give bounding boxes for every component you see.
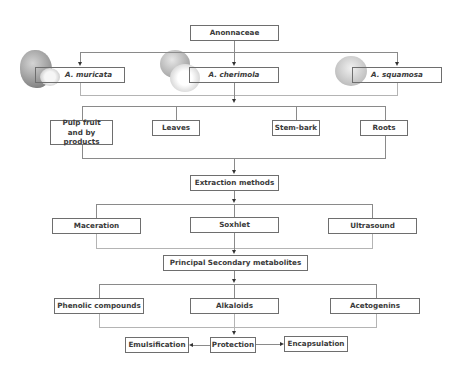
flowchart: Anonnaceae A. muricata A. cherimola A. s… <box>0 0 464 370</box>
species-label: A. muricata <box>65 70 112 80</box>
metabolite-alkaloids: Alkaloids <box>190 298 279 314</box>
protection-node: Protection <box>210 337 256 353</box>
connector-line <box>376 284 377 298</box>
connector-line <box>82 106 386 107</box>
plant-part-label: Leaves <box>162 123 190 133</box>
arrow-down-icon <box>232 62 236 66</box>
connector-line <box>99 314 100 327</box>
connector-line <box>234 284 235 298</box>
secondary-metabolites-node: Principal Secondary metabolites <box>163 255 308 271</box>
connector-line <box>234 204 235 217</box>
method-ultrasound: Ultrasound <box>328 218 417 234</box>
plant-part-label: Stem-bark <box>275 123 317 133</box>
species-label: A. cherimola <box>209 70 260 80</box>
arrow-down-icon <box>232 170 236 174</box>
connector-line <box>385 106 386 120</box>
root-label: Anonnaceae <box>210 28 260 38</box>
connector-line <box>372 204 373 218</box>
metabolite-label: Phenolic compounds <box>57 301 140 311</box>
connector-line <box>80 52 398 53</box>
method-maceration: Maceration <box>52 218 141 234</box>
species-node-cherimola: A. cherimola <box>189 67 279 83</box>
method-label: Ultrasound <box>350 221 395 231</box>
method-label: Maceration <box>74 221 120 231</box>
metabolites-header-label: Principal Secondary metabolites <box>170 258 301 268</box>
arrow-left-icon <box>189 343 193 347</box>
arrow-right-icon <box>280 342 284 346</box>
method-label: Soxhlet <box>219 220 250 230</box>
extraction-label: Extraction methods <box>195 178 274 188</box>
connector-line <box>234 233 235 251</box>
connector-line <box>176 106 177 120</box>
connector-line <box>234 314 235 332</box>
connector-line <box>96 234 97 248</box>
method-soxhlet: Soxhlet <box>190 217 279 233</box>
protection-encapsulation: Encapsulation <box>284 336 348 352</box>
extraction-methods-node: Extraction methods <box>190 175 279 191</box>
connector-line <box>385 136 386 158</box>
arrow-down-icon <box>232 199 236 203</box>
metabolite-label: Acetogenins <box>350 301 400 311</box>
species-node-squamosa: A. squamosa <box>352 67 442 83</box>
plant-part-leaves: Leaves <box>152 120 200 136</box>
species-label: A. squamosa <box>371 70 423 80</box>
plant-part-pulp: Pulp fruit and by products <box>50 120 113 145</box>
connector-line <box>82 145 83 158</box>
plant-part-label: Roots <box>372 123 395 133</box>
protection-method-label: Encapsulation <box>288 339 345 349</box>
species-node-muricata: A. muricata <box>35 67 125 83</box>
connector-line <box>372 234 373 248</box>
metabolite-label: Alkaloids <box>216 301 253 311</box>
protection-emulsification: Emulsification <box>125 337 189 353</box>
arrow-down-icon <box>232 331 236 335</box>
connector-line <box>80 83 81 95</box>
arrow-down-icon <box>395 62 399 66</box>
arrow-down-icon <box>78 62 82 66</box>
connector-line <box>99 284 377 285</box>
protection-method-label: Emulsification <box>128 340 185 350</box>
connector-line <box>99 284 100 298</box>
arrow-down-icon <box>232 99 236 103</box>
connector-line <box>193 345 210 346</box>
root-node-anonnaceae: Anonnaceae <box>190 25 279 41</box>
arrow-down-icon <box>232 250 236 254</box>
connector-line <box>397 83 398 95</box>
connector-line <box>99 327 377 328</box>
protection-label: Protection <box>212 340 254 350</box>
arrow-down-icon <box>232 279 236 283</box>
connector-line <box>256 344 280 345</box>
plant-part-label: Pulp fruit and by products <box>51 118 112 147</box>
metabolite-acetogenins: Acetogenins <box>330 298 420 314</box>
connector-line <box>80 95 398 96</box>
connector-line <box>96 204 97 218</box>
plant-part-roots: Roots <box>360 120 408 136</box>
connector-line <box>296 106 297 120</box>
connector-line <box>376 314 377 327</box>
metabolite-phenolic-compounds: Phenolic compounds <box>54 298 144 314</box>
plant-part-stem-bark: Stem-bark <box>272 120 320 136</box>
